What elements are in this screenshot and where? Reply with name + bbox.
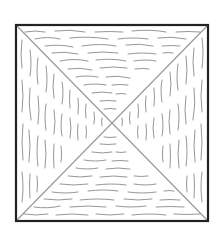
left-triangle-grain: [21, 40, 102, 202]
top-triangle-grain: [25, 30, 200, 109]
wood-grain-square-diagram: [0, 0, 221, 237]
bottom-triangle-grain: [24, 137, 200, 215]
right-triangle-grain: [122, 38, 203, 202]
